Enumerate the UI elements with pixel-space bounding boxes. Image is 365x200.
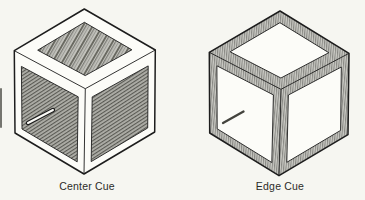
cube-pair-figure [0, 0, 365, 200]
scan-artifact-mark [0, 88, 2, 128]
center-cue-label: Center Cue [59, 180, 115, 192]
cube-pair-illustration: Center Cue Edge Cue [0, 0, 365, 200]
edge-cue-label: Edge Cue [256, 180, 304, 192]
